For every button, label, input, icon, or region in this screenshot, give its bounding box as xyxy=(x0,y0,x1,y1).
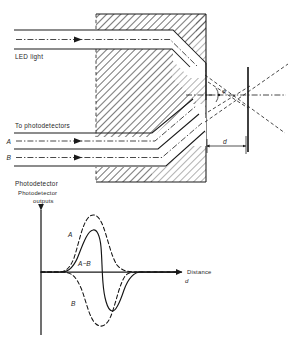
ray-emit-lower xyxy=(205,75,285,133)
annotation-b: B xyxy=(71,300,76,307)
annotation-a-minus-b: A−B xyxy=(77,260,91,267)
gap-dimension-label: d xyxy=(223,138,227,145)
angle-symbol-label: φ xyxy=(222,87,226,94)
figure-root: LED light To photodetectors A B Photodet… xyxy=(0,0,292,341)
chart-y-label-line2: outputs xyxy=(33,198,54,204)
to-photodetectors-label: To photodetectors xyxy=(15,122,70,130)
channel-b-label: B xyxy=(7,154,12,161)
chart-x-label-symbol: d xyxy=(185,277,189,284)
gap-dimension: d xyxy=(207,136,246,154)
ray-reflect-upper xyxy=(205,64,288,122)
chart-y-label-line1: Photodetector xyxy=(18,190,57,196)
ray-aux-b xyxy=(208,86,250,112)
diagram-canvas: LED light To photodetectors A B Photodet… xyxy=(0,0,292,341)
chart-x-label: Distance xyxy=(187,269,212,275)
angle-vertex-dot xyxy=(218,94,220,96)
led-light-label: LED light xyxy=(15,53,43,61)
output-chart: Photodetector outputs Distance d A A−B B xyxy=(18,190,212,335)
channel-a-label: A xyxy=(6,138,12,145)
sensor-head-assembly: LED light To photodetectors A B Photodet… xyxy=(6,14,289,187)
photodetector-label: Photodetector xyxy=(15,180,59,187)
annotation-a: A xyxy=(67,231,73,238)
curve-series-b xyxy=(41,272,176,326)
curve-series-a xyxy=(41,215,176,272)
